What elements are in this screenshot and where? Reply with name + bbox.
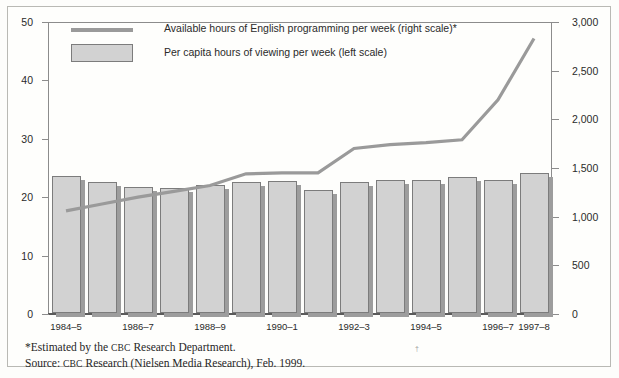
x-axis-tick-label: 1990–1 [266, 321, 298, 332]
footnote-source-suffix: Research (Nielsen Media Research), Feb. … [83, 357, 306, 369]
plot-area: 01020304050 05001,0001,5002,0002,5003,00… [48, 22, 552, 314]
footnote-estimated-suffix: Research Department. [131, 341, 236, 353]
right-tick-label: 3,000 [572, 16, 598, 28]
figure-container: 01020304050 05001,0001,5002,0002,5003,00… [0, 0, 619, 378]
right-tick-mark: 2,000 [551, 119, 559, 120]
right-tick-label: 500 [572, 259, 590, 271]
x-axis-tick-label: 1994–5 [410, 321, 442, 332]
right-tick-mark: 2,500 [551, 71, 559, 72]
left-tick-label: 40 [21, 74, 33, 86]
left-tick-mark: 0 [42, 314, 49, 315]
x-axis-tick-label: 1986–7 [122, 321, 154, 332]
stray-mark: † [415, 345, 419, 352]
x-axis-tick-label: 1988–9 [194, 321, 226, 332]
footnote-estimated: *Estimated by the CBC Research Departmen… [25, 340, 305, 356]
x-axis-tick-label: 1996–7 [482, 321, 514, 332]
x-axis-tick-label: 1992–3 [338, 321, 370, 332]
footnote-estimated-prefix: *Estimated by the [25, 341, 111, 353]
left-tick-label: 20 [21, 191, 33, 203]
x-axis-tick-label: 1997–8 [518, 321, 550, 332]
right-tick-mark: 3,000 [551, 22, 559, 23]
line-series-path [66, 39, 534, 211]
footnote-block: *Estimated by the CBC Research Departmen… [25, 340, 305, 371]
legend-label-line: Available hours of English programming p… [164, 22, 457, 34]
footnote-source-prefix: Source: [25, 357, 63, 369]
left-tick-label: 50 [21, 16, 33, 28]
footnote-estimated-caps: CBC [111, 343, 131, 353]
left-tick-label: 30 [21, 133, 33, 145]
left-tick-label: 10 [21, 250, 33, 262]
bar-swatch-icon [71, 44, 133, 62]
right-tick-label: 2,500 [572, 65, 598, 77]
left-tick-label: 0 [27, 308, 33, 320]
legend-label-bar: Per capita hours of viewing per week (le… [164, 46, 387, 58]
right-tick-label: 1,000 [572, 211, 598, 223]
x-axis-tick-label: 1984–5 [50, 321, 82, 332]
right-tick-mark: 1,500 [551, 168, 559, 169]
line-swatch-icon [71, 28, 133, 32]
footnote-source: Source: CBC Research (Nielsen Media Rese… [25, 356, 305, 372]
right-tick-label: 2,000 [572, 113, 598, 125]
footnote-source-caps: CBC [63, 359, 83, 369]
right-tick-label: 1,500 [572, 162, 598, 174]
right-tick-label: 0 [572, 308, 578, 320]
line-series [48, 22, 552, 314]
